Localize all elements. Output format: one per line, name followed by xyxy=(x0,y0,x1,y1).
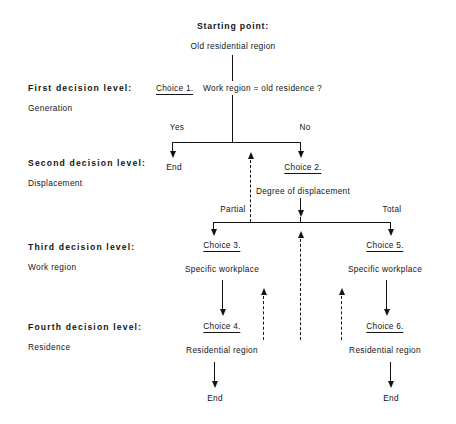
choice-6-text: Residential region xyxy=(349,346,421,354)
edge-start-to-choice1 xyxy=(232,55,233,81)
arrowhead-no-down xyxy=(298,151,304,158)
level-label-second: Second decision level: xyxy=(28,159,146,168)
edge-label-total: Total xyxy=(383,206,402,214)
arrowhead-feedback-right-short xyxy=(339,288,345,295)
arrowhead-total-down xyxy=(388,229,394,236)
level-label-first: First decision level: xyxy=(28,84,132,93)
choice-5-text: Specific workplace xyxy=(348,265,422,273)
arrowhead-feedback-right-to-bar xyxy=(298,231,304,238)
edge-partial-total-split-bar xyxy=(213,222,391,223)
arrowhead-yes-down xyxy=(170,151,176,158)
arrowhead-feedback-left-short xyxy=(261,288,267,295)
choice-2-text: Degree of displacement xyxy=(256,187,350,195)
choice-1-text: Work region = old residence ? xyxy=(203,84,322,92)
edge-choice1-down xyxy=(232,95,233,142)
choice-5-label: Choice 5. xyxy=(366,241,403,252)
edge-choice2-into-bar xyxy=(300,217,301,223)
arrowhead-choice5-down xyxy=(384,309,390,316)
choice-4-label: Choice 4. xyxy=(203,322,240,333)
terminal-end-left: End xyxy=(207,394,223,402)
level-sub-second: Displacement xyxy=(28,179,82,187)
choice-1-label: Choice 1. xyxy=(156,84,193,95)
feedback-dashed-line-right-to-bar xyxy=(300,239,301,340)
edge-label-yes: Yes xyxy=(170,124,184,132)
choice-3-text: Specific workplace xyxy=(185,265,259,273)
choice-4-text: Residential region xyxy=(186,346,258,354)
choice-3-label: Choice 3. xyxy=(203,241,240,252)
level-sub-fourth: Residence xyxy=(28,343,70,351)
choice-2-label: Choice 2. xyxy=(284,163,321,174)
starting-point-subtitle: Old residential region xyxy=(190,42,275,50)
edge-yes-no-split-bar xyxy=(172,142,301,143)
feedback-dashed-line-left-short xyxy=(263,296,264,340)
feedback-dashed-line-right-short xyxy=(341,296,342,340)
feedback-dashed-line-to-junction xyxy=(250,160,251,222)
terminal-end-right: End xyxy=(383,394,399,402)
starting-point-title: Starting point: xyxy=(197,22,269,31)
flowchart-diagram: Starting point: Old residential region F… xyxy=(0,0,456,424)
choice-6-label: Choice 6. xyxy=(366,322,403,333)
edge-choice3-to-choice4 xyxy=(222,280,223,312)
level-sub-first: Generation xyxy=(28,104,73,112)
edge-label-no: No xyxy=(299,124,310,132)
arrowhead-choice3-down xyxy=(220,309,226,316)
arrowhead-choice2-down xyxy=(298,210,304,217)
level-sub-third: Work region xyxy=(28,263,76,271)
terminal-end-yes: End xyxy=(166,163,182,171)
edge-label-partial: Partial xyxy=(220,206,245,214)
level-label-fourth: Fourth decision level: xyxy=(28,323,142,332)
arrowhead-choice6-down xyxy=(388,381,394,388)
edge-choice5-to-choice6 xyxy=(386,280,387,312)
arrowhead-choice4-down xyxy=(212,381,218,388)
level-label-third: Third decision level: xyxy=(28,243,135,252)
arrowhead-feedback-to-junction xyxy=(248,152,254,159)
arrowhead-partial-down xyxy=(211,229,217,236)
